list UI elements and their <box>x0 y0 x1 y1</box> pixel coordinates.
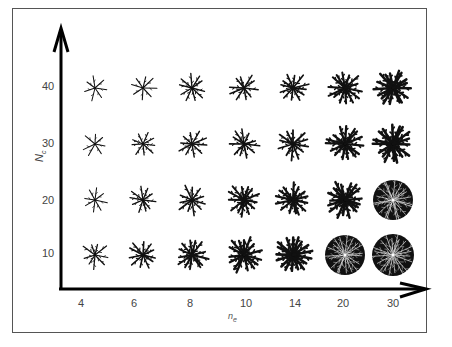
dendrite-pattern <box>132 77 157 100</box>
x-tick-6: 6 <box>131 297 137 309</box>
dendrite-pattern <box>179 131 207 157</box>
dendrite-pattern <box>280 75 308 101</box>
x-tick-14: 14 <box>289 297 301 309</box>
dendrite-pattern <box>373 125 410 163</box>
dendrite-pattern <box>132 133 155 155</box>
dendrite-pattern <box>277 237 313 270</box>
dendrite-pattern <box>325 233 365 275</box>
dendrite-pattern <box>180 73 205 100</box>
dendrite-pattern <box>230 129 260 158</box>
dendrite-pattern <box>276 182 308 215</box>
dendrite-pattern <box>278 130 308 161</box>
dendrite-pattern <box>83 134 105 155</box>
dendrite-pattern <box>179 185 205 215</box>
dendrite-pattern <box>85 76 107 101</box>
dendrite-pattern <box>178 241 208 270</box>
dendrite-pattern <box>328 182 361 218</box>
y-tick-40: 40 <box>42 80 54 92</box>
dendrite-pattern <box>129 242 155 268</box>
y-tick-10: 10 <box>42 247 54 259</box>
dendrite-pattern <box>373 179 414 221</box>
x-tick-10: 10 <box>240 297 252 309</box>
x-axis-label-sub: e <box>233 316 237 323</box>
dendrite-pattern <box>374 71 411 104</box>
dendrite-pattern <box>371 234 414 276</box>
dendrite-pattern <box>229 237 261 272</box>
x-tick-30: 30 <box>387 297 399 309</box>
y-axis-label: Nc <box>33 151 47 162</box>
dendrite-pattern <box>328 73 362 104</box>
axes-svg <box>0 0 452 347</box>
dendrite-pattern <box>230 75 259 99</box>
x-tick-20: 20 <box>337 297 349 309</box>
y-tick-30: 30 <box>42 137 54 149</box>
x-tick-8: 8 <box>187 297 193 309</box>
y-axis-label-sub: c <box>40 151 47 155</box>
y-tick-20: 20 <box>42 194 54 206</box>
pattern-grid <box>83 71 414 276</box>
y-axis-label-main: N <box>33 154 45 162</box>
dendrite-pattern <box>326 126 364 159</box>
x-axis-label: ne <box>228 311 237 323</box>
dendrite-pattern <box>83 245 108 270</box>
dendrite-pattern <box>229 186 259 217</box>
dendrite-pattern <box>130 186 156 212</box>
dendrite-pattern <box>85 188 108 212</box>
x-tick-4: 4 <box>78 297 84 309</box>
